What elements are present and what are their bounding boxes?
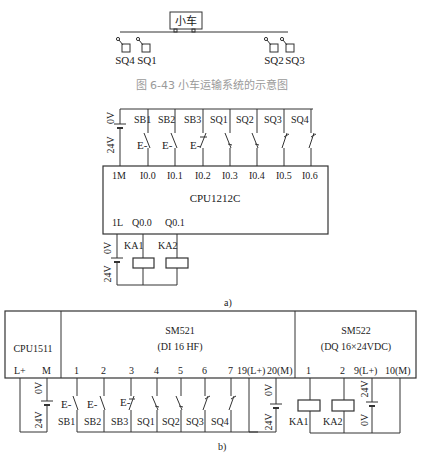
- svg-text:Q0.1: Q0.1: [165, 217, 185, 228]
- svg-text:E-: E-: [61, 398, 72, 410]
- svg-text:I0.4: I0.4: [249, 170, 265, 181]
- svg-text:SQ2: SQ2: [264, 54, 284, 66]
- svg-text:E-: E-: [162, 139, 173, 151]
- input-switch-sb1: E- SB1: [134, 109, 151, 166]
- svg-text:6: 6: [202, 365, 207, 376]
- svg-text:SB3: SB3: [184, 114, 201, 125]
- svg-text:SQ3: SQ3: [285, 54, 305, 66]
- svg-text:KA1: KA1: [124, 240, 143, 251]
- relay-coil-ka1: KA1: [124, 234, 154, 285]
- sm521-title: SM521: [165, 325, 194, 336]
- svg-text:SB2: SB2: [158, 114, 175, 125]
- sm521-subtitle: (DI 16 HF): [158, 341, 203, 353]
- limit-switch-sq1-b: SQ1: [137, 378, 159, 432]
- svg-text:I0.3: I0.3: [222, 170, 238, 181]
- svg-text:E-: E-: [137, 139, 148, 151]
- svg-text:I0.0: I0.0: [140, 170, 156, 181]
- figure-b: CPU1511 L+ M SM521 (DI 16 HF) 1 2 3 4 5 …: [5, 311, 416, 453]
- svg-text:2: 2: [340, 365, 345, 376]
- svg-text:I0.6: I0.6: [302, 170, 318, 181]
- cart-schematic: 小车 SQ4 SQ1 SQ2 SQ3 图 6-43 小车运输系统的示意图: [115, 12, 305, 92]
- svg-text:SQ2: SQ2: [162, 416, 180, 427]
- svg-text:SQ1: SQ1: [137, 54, 157, 66]
- svg-text:Q0.0: Q0.0: [132, 217, 152, 228]
- limit-switch-sq2: SQ2: [264, 37, 284, 66]
- figure-label-b: b): [218, 441, 226, 453]
- limit-switch-sq3-b: SQ3: [186, 378, 210, 432]
- figure-caption: 图 6-43 小车运输系统的示意图: [136, 78, 289, 92]
- svg-text:0V: 0V: [102, 241, 113, 254]
- svg-text:SQ3: SQ3: [264, 114, 282, 125]
- svg-text:0V: 0V: [33, 381, 44, 394]
- sm522-subtitle: (DQ 16×24VDC): [321, 341, 391, 353]
- svg-text:1M: 1M: [112, 170, 126, 181]
- input-switch-sb3: E- SB3: [184, 109, 207, 166]
- svg-text:24V: 24V: [105, 136, 116, 154]
- limit-switch-sq4-b: SQ4: [211, 378, 236, 432]
- svg-text:SQ4: SQ4: [291, 114, 309, 125]
- svg-text:E-: E-: [120, 396, 131, 408]
- svg-text:SB2: SB2: [84, 416, 101, 427]
- svg-text:1: 1: [306, 365, 311, 376]
- cart-wheel-icon: [174, 29, 177, 32]
- svg-text:SB1: SB1: [134, 114, 151, 125]
- input-switch-sb2: E- SB2: [158, 109, 177, 166]
- input-switch-sb1-b: E- SB1: [58, 378, 78, 432]
- figure-a: 0V 24V E- SB1 E- SB2 E- SB3 SQ1 SQ2 SQ3: [102, 109, 328, 309]
- svg-text:SB3: SB3: [111, 416, 128, 427]
- relay-coil-ka2-b: KA2: [323, 378, 354, 433]
- svg-text:24V: 24V: [33, 411, 44, 429]
- svg-text:L+: L+: [14, 365, 26, 376]
- svg-text:SQ3: SQ3: [186, 416, 204, 427]
- cpu-label: CPU1212C: [190, 192, 241, 204]
- limit-switch-sq4: SQ4: [115, 37, 135, 66]
- limit-switch-sq4: SQ4: [291, 109, 316, 166]
- svg-text:24V: 24V: [359, 380, 370, 398]
- svg-text:3: 3: [129, 365, 134, 376]
- svg-text:I0.2: I0.2: [195, 170, 211, 181]
- svg-text:19(L+): 19(L+): [237, 365, 265, 377]
- limit-switch-sq3: SQ3: [280, 37, 305, 66]
- svg-text:9(L+): 9(L+): [354, 365, 377, 377]
- svg-text:KA2: KA2: [323, 416, 342, 427]
- svg-text:I0.1: I0.1: [167, 170, 183, 181]
- limit-switch-sq1: SQ1: [210, 109, 232, 166]
- svg-text:M: M: [42, 365, 51, 376]
- svg-text:E-: E-: [87, 398, 98, 410]
- svg-text:0V: 0V: [263, 383, 274, 396]
- svg-text:20(M): 20(M): [267, 365, 293, 377]
- svg-text:7: 7: [228, 365, 233, 376]
- svg-text:24V: 24V: [263, 413, 274, 431]
- limit-switch-sq3: SQ3: [264, 109, 289, 166]
- svg-text:SQ1: SQ1: [137, 416, 155, 427]
- cart-wheel-icon: [192, 29, 195, 32]
- figure-label-a: a): [224, 297, 232, 309]
- svg-text:SQ4: SQ4: [115, 54, 135, 66]
- limit-switch-sq1: SQ1: [136, 37, 156, 66]
- svg-text:1L: 1L: [112, 217, 123, 228]
- input-switch-sb2-b: E- SB2: [84, 378, 105, 432]
- svg-text:0V: 0V: [359, 413, 370, 426]
- svg-text:KA1: KA1: [289, 416, 308, 427]
- relay-coil-ka1-b: KA1: [289, 378, 320, 433]
- svg-text:5: 5: [178, 365, 183, 376]
- svg-text:SQ2: SQ2: [236, 114, 254, 125]
- relay-coil-ka2: KA2: [158, 234, 188, 285]
- svg-text:1: 1: [74, 365, 79, 376]
- limit-switch-sq2: SQ2: [236, 109, 259, 166]
- svg-text:KA2: KA2: [158, 240, 177, 251]
- svg-text:24V: 24V: [102, 265, 113, 283]
- svg-text:SQ4: SQ4: [211, 416, 229, 427]
- svg-text:4: 4: [154, 365, 159, 376]
- svg-text:0V: 0V: [105, 111, 116, 124]
- input-switch-sb3-b: E- SB3: [111, 378, 135, 432]
- svg-text:2: 2: [101, 365, 106, 376]
- svg-text:E-: E-: [190, 139, 201, 151]
- svg-text:SQ1: SQ1: [210, 114, 228, 125]
- svg-text:I0.5: I0.5: [276, 170, 292, 181]
- svg-text:10(M): 10(M): [385, 365, 411, 377]
- cpu1511-label: CPU1511: [13, 343, 52, 354]
- svg-text:SB1: SB1: [58, 416, 75, 427]
- sm522-title: SM522: [341, 325, 370, 336]
- limit-switch-sq2-b: SQ2: [162, 378, 183, 432]
